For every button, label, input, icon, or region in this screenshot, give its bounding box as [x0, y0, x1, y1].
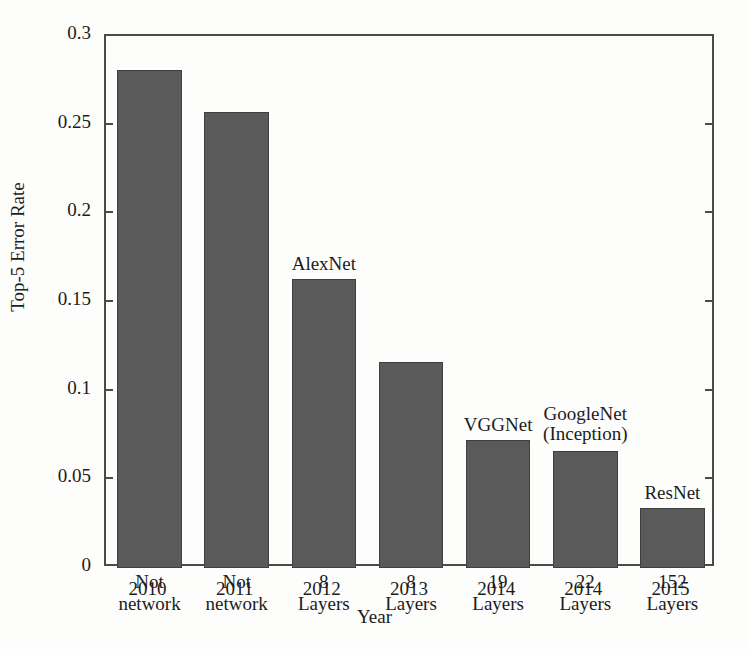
- bar-group[interactable]: Notnetwork: [117, 36, 181, 568]
- plot-frame: NotnetworkNotnetworkAlexNet8Layers8Layer…: [104, 34, 714, 566]
- bar-network-label-line1: GoogleNet: [543, 404, 627, 425]
- bar-network-label: GoogleNet(Inception): [543, 404, 627, 445]
- bar[interactable]: [553, 451, 617, 568]
- bar-group[interactable]: AlexNet8Layers: [292, 36, 356, 568]
- bar-group[interactable]: VGGNet19Layers: [466, 36, 530, 568]
- x-tick-label-4: 2014: [477, 578, 515, 600]
- bar[interactable]: [292, 279, 356, 568]
- bar-group[interactable]: GoogleNet(Inception)22Layers: [553, 36, 617, 568]
- x-tick-label-0: 2010: [129, 578, 167, 600]
- bar-network-label-line1: AlexNet: [292, 254, 356, 275]
- bar[interactable]: [466, 440, 530, 568]
- bar-network-label-line2: (Inception): [543, 424, 627, 445]
- bar-network-label-line1: ResNet: [644, 483, 700, 504]
- bar[interactable]: [379, 362, 443, 568]
- bar[interactable]: [640, 508, 704, 568]
- bar-network-label-line1: VGGNet: [464, 415, 533, 436]
- bar-network-label: ResNet: [644, 483, 700, 504]
- y-axis-title: Top-5 Error Rate: [7, 137, 29, 357]
- x-tick-label-2: 2012: [303, 578, 341, 600]
- x-tick-label-5: 2014: [564, 578, 602, 600]
- bar-group[interactable]: 8Layers: [379, 36, 443, 568]
- x-tick-label-3: 2013: [390, 578, 428, 600]
- x-axis-title: Year: [0, 606, 749, 628]
- x-tick-label-6: 2015: [651, 578, 689, 600]
- chart-page: Top-5 Error Rate 0.30.250.20.150.10.050 …: [0, 0, 749, 649]
- bar-group[interactable]: ResNet152Layers: [640, 36, 704, 568]
- bar[interactable]: [117, 70, 181, 568]
- bar-network-label: AlexNet: [292, 254, 356, 275]
- bar[interactable]: [204, 112, 268, 568]
- bar-network-label: VGGNet: [464, 415, 533, 436]
- bar-group[interactable]: Notnetwork: [204, 36, 268, 568]
- bars-layer: NotnetworkNotnetworkAlexNet8Layers8Layer…: [106, 36, 716, 568]
- x-tick-label-1: 2011: [216, 578, 253, 600]
